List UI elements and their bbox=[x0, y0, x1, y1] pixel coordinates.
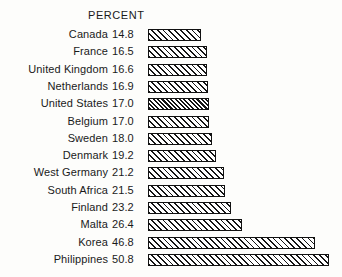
bar-category-label: Philippines bbox=[0, 253, 108, 266]
bar bbox=[148, 219, 242, 231]
bar bbox=[148, 81, 208, 93]
bar-value-label: 21.2 bbox=[112, 166, 138, 179]
bar-category-label: Denmark bbox=[0, 149, 108, 162]
bar-row: Belgium17.0 bbox=[0, 115, 342, 132]
bar-row: Finland23.2 bbox=[0, 201, 342, 218]
bar-value-label: 17.0 bbox=[112, 115, 138, 128]
bar-row: Malta26.4 bbox=[0, 218, 342, 235]
bar-value-label: 21.5 bbox=[112, 184, 138, 197]
bar-category-label: South Africa bbox=[0, 184, 108, 197]
bar-category-label: Netherlands bbox=[0, 80, 108, 93]
bar-value-label: 14.8 bbox=[112, 28, 138, 41]
bar-value-label: 19.2 bbox=[112, 149, 138, 162]
bar bbox=[148, 185, 225, 197]
bar bbox=[148, 150, 216, 162]
bar-value-label: 26.4 bbox=[112, 218, 138, 231]
bar-value-label: 16.9 bbox=[112, 80, 138, 93]
bar bbox=[148, 237, 315, 249]
bar bbox=[148, 167, 224, 179]
percent-column-header: PERCENT bbox=[88, 9, 144, 21]
bar-category-label: West Germany bbox=[0, 166, 108, 179]
bar-row: Netherlands16.9 bbox=[0, 80, 342, 97]
bar-category-label: Finland bbox=[0, 201, 108, 214]
bar-row: Sweden18.0 bbox=[0, 132, 342, 149]
bar-value-label: 16.5 bbox=[112, 45, 138, 58]
bar-row: Canada14.8 bbox=[0, 28, 342, 45]
bar bbox=[148, 64, 207, 76]
bar-row: Korea46.8 bbox=[0, 236, 342, 253]
bar-value-label: 50.8 bbox=[112, 253, 138, 266]
bar-category-label: France bbox=[0, 45, 108, 58]
bar-category-label: Malta bbox=[0, 218, 108, 231]
bar-category-label: Belgium bbox=[0, 115, 108, 128]
bar-value-label: 23.2 bbox=[112, 201, 138, 214]
percent-bar-chart: PERCENT Canada14.8France16.5United Kingd… bbox=[0, 0, 342, 277]
bar-category-label: Korea bbox=[0, 236, 108, 249]
bar-category-label: United States bbox=[0, 97, 108, 110]
bar-row: South Africa21.5 bbox=[0, 184, 342, 201]
bar-value-label: 17.0 bbox=[112, 97, 138, 110]
bar-row: United Kingdom16.6 bbox=[0, 63, 342, 80]
bar-category-label: United Kingdom bbox=[0, 63, 108, 76]
bar-value-label: 46.8 bbox=[112, 236, 138, 249]
bar-value-label: 18.0 bbox=[112, 132, 138, 145]
bar-highlighted bbox=[148, 98, 209, 110]
bar bbox=[148, 29, 201, 41]
bar bbox=[148, 202, 231, 214]
bar bbox=[148, 46, 207, 58]
bar-category-label: Sweden bbox=[0, 132, 108, 145]
bar-category-label: Canada bbox=[0, 28, 108, 41]
bar bbox=[148, 254, 329, 266]
bar-row: West Germany21.2 bbox=[0, 166, 342, 183]
bar-row: Denmark19.2 bbox=[0, 149, 342, 166]
bar bbox=[148, 116, 209, 128]
bar-row: Philippines50.8 bbox=[0, 253, 342, 270]
bar-row: United States17.0 bbox=[0, 97, 342, 114]
bar bbox=[148, 133, 212, 145]
bar-row: France16.5 bbox=[0, 45, 342, 62]
bar-value-label: 16.6 bbox=[112, 63, 138, 76]
